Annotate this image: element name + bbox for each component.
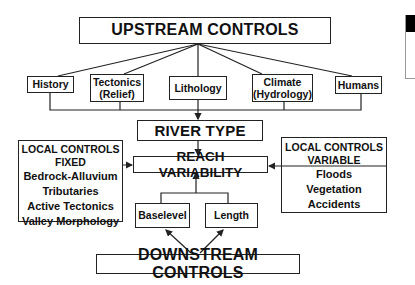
reach-variability-box: REACH VARIABILITY: [133, 156, 268, 173]
river-type-box: RIVER TYPE: [137, 120, 263, 141]
list-item: Vegetation: [282, 182, 386, 197]
list-item: Valley Morphology: [19, 214, 122, 229]
factor-climate: Climate (Hydrology): [252, 74, 313, 102]
factor-label: Tectonics: [93, 76, 141, 88]
fan-line-tectonics: [124, 44, 198, 74]
local-fixed-items: Bedrock-Alluvium Tributaries Active Tect…: [19, 169, 122, 228]
factor-history: History: [27, 76, 74, 93]
downstream-controls-box: DOWNSTREAM CONTROLS: [96, 254, 300, 274]
factor-sublabel: (Relief): [99, 88, 135, 100]
factor-label: Baselevel: [138, 209, 186, 221]
fan-line-history: [58, 44, 198, 76]
factor-label: Humans: [338, 79, 379, 91]
local-controls-variable-box: LOCAL CONTROLS VARIABLE Floods Vegetatio…: [281, 137, 387, 213]
factor-length: Length: [205, 203, 258, 228]
upstream-controls-box: UPSTREAM CONTROLS: [79, 17, 331, 44]
fan-line-climate: [198, 44, 262, 74]
fan-line-humans: [198, 44, 352, 76]
factor-sublabel: (Hydrology): [253, 88, 312, 100]
local-variable-title: LOCAL CONTROLS VARIABLE: [282, 141, 386, 166]
clipped-edge-panel: [405, 15, 415, 79]
factor-baselevel: Baselevel: [135, 203, 190, 228]
factor-label: Length: [214, 209, 249, 221]
list-item: Accidents: [282, 197, 386, 212]
list-item: Tributaries: [19, 184, 122, 199]
list-item: Floods: [282, 167, 386, 182]
factor-label: History: [32, 78, 68, 90]
local-variable-items: Floods Vegetation Accidents: [282, 167, 386, 212]
downstream-bracket: [161, 193, 228, 203]
list-item: Active Tectonics: [19, 199, 122, 214]
list-item: Bedrock-Alluvium: [19, 169, 122, 184]
factor-tectonics: Tectonics (Relief): [90, 74, 144, 102]
local-fixed-title: LOCAL CONTROLS FIXED: [19, 143, 122, 168]
factor-humans: Humans: [335, 76, 382, 94]
factor-label: Lithology: [174, 82, 221, 94]
river-type-label: RIVER TYPE: [154, 122, 245, 139]
factor-lithology: Lithology: [169, 76, 227, 100]
downstream-controls-label: DOWNSTREAM CONTROLS: [97, 246, 299, 283]
factor-label: Climate: [264, 76, 302, 88]
reach-variability-label: REACH VARIABILITY: [134, 149, 267, 180]
upstream-controls-label: UPSTREAM CONTROLS: [111, 21, 298, 39]
local-controls-fixed-box: LOCAL CONTROLS FIXED Bedrock-Alluvium Tr…: [18, 140, 123, 222]
clipped-panel-header: [406, 15, 415, 32]
